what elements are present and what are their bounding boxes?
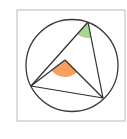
geometry-diagram <box>0 0 127 139</box>
circumcircle <box>26 20 118 112</box>
triangle-side-top-left <box>31 22 88 86</box>
triangle-side-top-bottomright <box>88 22 103 98</box>
